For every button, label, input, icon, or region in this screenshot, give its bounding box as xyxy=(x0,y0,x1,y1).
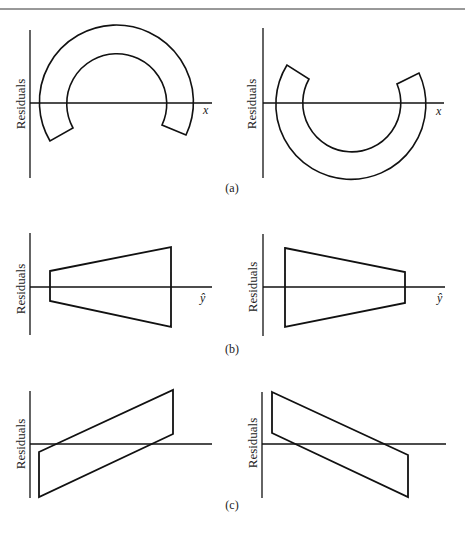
plot-b-right xyxy=(263,234,445,336)
y-axis-label: Residuals xyxy=(244,79,259,130)
panel-caption-b: (b) xyxy=(225,342,239,356)
residual-band xyxy=(276,65,426,179)
plot-c-right xyxy=(262,392,446,498)
plot-b-left xyxy=(30,233,212,335)
x-axis-label: ŷ xyxy=(199,291,206,305)
y-axis-label: Residuals xyxy=(245,262,260,313)
x-axis-label: x xyxy=(435,104,442,118)
residual-band xyxy=(39,25,193,141)
residual-patterns-figure: Residuals x Residuals x (a) Residuals ŷ … xyxy=(0,0,465,535)
plot-a-left xyxy=(30,25,212,178)
panel-caption-a: (a) xyxy=(225,181,238,195)
y-axis-label: Residuals xyxy=(13,419,28,470)
y-axis-label: Residuals xyxy=(245,418,260,469)
y-axis-label: Residuals xyxy=(13,264,28,315)
plot-a-right xyxy=(263,28,444,179)
y-axis-label: Residuals xyxy=(13,79,28,130)
x-axis-label: ŷ xyxy=(436,291,443,305)
plot-c-left xyxy=(30,390,212,498)
panel-caption-c: (c) xyxy=(225,498,238,512)
x-axis-label: x xyxy=(202,103,209,117)
